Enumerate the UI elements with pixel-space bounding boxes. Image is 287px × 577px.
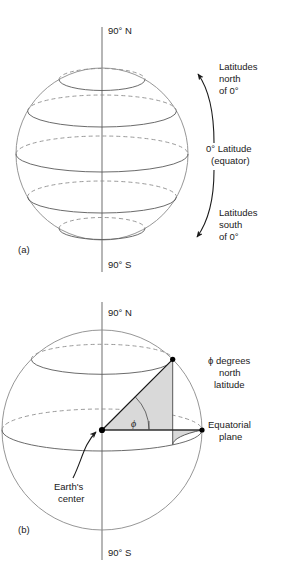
earth-center-dot: [99, 427, 105, 433]
latitudes-south-label: Latitudes south of 0°: [219, 207, 258, 242]
panel-b-tag: (b): [18, 524, 30, 535]
panel-a: 90° N 90° S Latitudes north of 0° 0° Lat…: [16, 25, 258, 272]
svg-text:north: north: [219, 73, 241, 84]
figure-canvas: 90° N 90° S Latitudes north of 0° 0° Lat…: [0, 0, 287, 577]
north-pole-label-a: 90° N: [108, 25, 132, 36]
phi-degrees-north-latitude-label: ϕ degrees north latitude: [208, 355, 251, 390]
svg-text:Equatorial: Equatorial: [208, 419, 251, 430]
svg-text:of 0°: of 0°: [219, 231, 239, 242]
latitude-wedge: [102, 359, 202, 444]
svg-text:ϕ degrees: ϕ degrees: [208, 355, 251, 366]
svg-text:Earth's: Earth's: [54, 481, 84, 492]
latitudes-north-arrow: [198, 74, 214, 143]
equatorial-plane-label: Equatorial plane: [208, 419, 251, 442]
svg-text:plane: plane: [219, 431, 242, 442]
earths-center-label: Earth's center: [54, 481, 84, 504]
equator-point-dot: [199, 427, 204, 432]
svg-text:of 0°: of 0°: [219, 85, 239, 96]
latitudes-south-arrow: [197, 170, 214, 237]
svg-text:(equator): (equator): [211, 155, 250, 166]
panel-a-tag: (a): [18, 244, 30, 255]
latitude-figure: 90° N 90° S Latitudes north of 0° 0° Lat…: [0, 0, 287, 577]
svg-text:south: south: [219, 219, 242, 230]
phi-angle-symbol: ϕ: [131, 418, 136, 429]
equator-label: 0° Latitude (equator): [206, 143, 252, 166]
earths-center-arrow: [73, 432, 96, 478]
south-pole-label-b: 90° S: [108, 547, 131, 558]
svg-text:Latitudes: Latitudes: [219, 61, 258, 72]
svg-text:0° Latitude: 0° Latitude: [206, 143, 252, 154]
latitudes-north-label: Latitudes north of 0°: [219, 61, 258, 96]
svg-text:latitude: latitude: [214, 379, 245, 390]
svg-text:Latitudes: Latitudes: [219, 207, 258, 218]
svg-text:center: center: [58, 493, 84, 504]
svg-text:north: north: [219, 367, 241, 378]
latitude-point-dot: [170, 357, 175, 362]
south-pole-label-a: 90° S: [108, 259, 131, 270]
north-pole-label-b: 90° N: [108, 307, 132, 318]
panel-b: 90° N 90° S ϕ degrees north latitude Equ…: [2, 302, 251, 560]
